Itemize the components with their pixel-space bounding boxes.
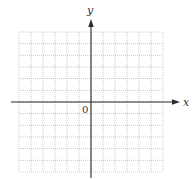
y-axis-label: y <box>86 4 94 17</box>
coordinate-plane: x y 0 <box>0 0 194 180</box>
y-axis-arrow-icon <box>88 19 93 27</box>
origin-label: 0 <box>82 104 88 115</box>
x-axis-label: x <box>183 96 190 109</box>
x-axis-arrow-icon <box>172 99 180 104</box>
